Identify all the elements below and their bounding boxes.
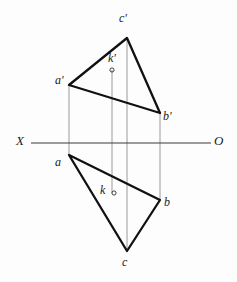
geometry-canvas — [0, 0, 237, 282]
point-marker-k — [112, 191, 116, 195]
axis-label-x: X — [16, 134, 24, 147]
vertex-label-b-prime: b' — [163, 110, 172, 122]
projection-drawing: X O a' b' c' k' a b c k — [0, 0, 237, 282]
vertex-label-a-prime: a' — [55, 74, 64, 86]
vertex-label-k: k — [100, 184, 105, 196]
vertex-label-c-prime: c' — [119, 12, 127, 24]
horizontal-projection-triangle — [69, 155, 160, 251]
frontal-projection-triangle — [69, 38, 160, 113]
axis-label-o: O — [214, 134, 223, 147]
vertex-label-a: a — [55, 156, 61, 168]
vertex-label-b: b — [164, 196, 170, 208]
vertex-label-k-prime: k' — [108, 52, 116, 64]
vertex-label-c: c — [122, 256, 127, 268]
